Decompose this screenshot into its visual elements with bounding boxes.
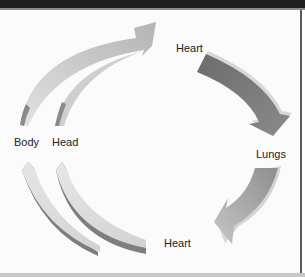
label-body: Body xyxy=(14,136,39,148)
arrow-heart-to-lungs xyxy=(197,51,292,136)
arrow-lungs-to-heart xyxy=(214,166,281,244)
arrow-heart-to-body xyxy=(20,22,156,126)
circulation-diagram xyxy=(0,0,305,277)
arrow-head-to-heart xyxy=(56,162,146,254)
label-lungs: Lungs xyxy=(256,148,286,160)
label-heart-bottom: Heart xyxy=(164,237,191,249)
label-heart-top: Heart xyxy=(176,42,203,54)
label-head: Head xyxy=(52,136,78,148)
